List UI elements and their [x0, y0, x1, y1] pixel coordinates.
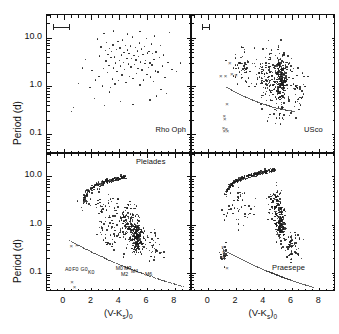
data-point — [232, 213, 233, 214]
data-point — [275, 196, 276, 197]
x-tick-minor — [333, 289, 334, 291]
data-point — [103, 68, 104, 69]
data-point — [96, 183, 97, 184]
x-axis-title: (V-Ks)0 — [233, 307, 293, 320]
y-tick-label: 10.0 — [6, 169, 42, 179]
data-point — [288, 99, 289, 100]
data-point — [295, 237, 296, 238]
data-point — [297, 253, 298, 254]
y-tick-minor — [47, 187, 50, 188]
y-tick-minor — [192, 232, 195, 233]
data-point — [130, 66, 131, 67]
x-tick-minor — [133, 154, 134, 157]
data-point — [289, 254, 290, 255]
data-point — [279, 117, 280, 118]
data-point — [290, 232, 291, 233]
data-point — [154, 229, 155, 230]
y-tick-minor — [192, 275, 195, 276]
data-point — [266, 198, 267, 199]
data-point — [276, 103, 277, 104]
data-point — [221, 209, 222, 210]
y-tick-minor — [47, 229, 50, 230]
x-tick-minor — [112, 289, 113, 291]
data-point — [233, 200, 234, 201]
data-point — [273, 202, 274, 203]
data-point — [290, 65, 291, 66]
y-tick-minor — [47, 139, 50, 140]
data-point — [118, 233, 119, 234]
data-point — [246, 71, 247, 72]
data-point — [238, 223, 239, 224]
data-point — [295, 242, 296, 243]
x-tick-minor — [312, 289, 313, 291]
data-point — [242, 179, 243, 180]
data-point — [153, 81, 154, 82]
x-tick-minor — [105, 289, 106, 291]
data-point — [132, 214, 133, 215]
y-tick-minor — [47, 63, 50, 64]
data-point — [260, 83, 261, 84]
data-point — [291, 71, 292, 72]
data-point — [124, 69, 125, 70]
x-tick-minor — [154, 154, 155, 157]
x-tick-minor — [229, 154, 230, 157]
data-point — [114, 56, 115, 57]
data-point — [270, 53, 271, 54]
data-point — [284, 98, 285, 99]
data-point — [280, 39, 281, 40]
data-point — [99, 188, 100, 189]
data-point — [136, 205, 137, 206]
spectral-type-label: M4 — [131, 268, 138, 274]
cross-marker — [222, 117, 227, 122]
data-point — [295, 117, 296, 118]
detection-limit-marker — [313, 287, 314, 288]
data-point — [271, 202, 272, 203]
data-point — [267, 171, 268, 172]
data-point — [287, 248, 288, 249]
data-point — [130, 208, 131, 209]
x-tick-major — [147, 15, 148, 20]
data-point — [275, 55, 276, 56]
y-tick-minor — [192, 179, 195, 180]
data-point — [244, 72, 245, 73]
x-tick-minor — [271, 154, 272, 157]
y-tick-minor — [47, 94, 50, 95]
x-tick-minor — [201, 154, 202, 157]
data-point — [132, 219, 133, 220]
y-tick-label: 1.0 — [6, 218, 42, 228]
data-point — [145, 244, 146, 245]
data-point — [284, 223, 285, 224]
data-point — [303, 84, 304, 85]
data-point — [261, 173, 262, 174]
data-point — [105, 217, 106, 218]
data-point — [162, 65, 163, 66]
y-tick-major — [47, 176, 52, 177]
y-tick-minor — [333, 232, 335, 233]
data-point — [112, 215, 113, 216]
data-point — [291, 250, 292, 251]
data-point — [238, 210, 239, 211]
y-tick-minor — [192, 184, 195, 185]
data-point — [110, 87, 111, 88]
data-point — [98, 213, 99, 214]
data-point — [161, 252, 162, 253]
y-tick-minor — [333, 277, 335, 278]
data-point — [270, 171, 271, 172]
data-point — [278, 227, 279, 228]
data-point — [87, 191, 88, 192]
x-tick-label: 4 — [108, 295, 128, 305]
y-tick-minor — [333, 280, 335, 281]
y-tick-minor — [47, 235, 50, 236]
data-point — [295, 234, 296, 235]
y-tick-minor — [192, 43, 195, 44]
x-tick-minor — [50, 289, 51, 291]
x-tick-minor — [271, 289, 272, 291]
y-tick-minor — [47, 196, 50, 197]
x-tick-major — [236, 15, 237, 20]
data-point — [265, 172, 266, 173]
data-point — [167, 62, 168, 63]
x-tick-minor — [305, 289, 306, 291]
data-point — [284, 90, 285, 91]
data-point — [86, 202, 87, 203]
data-point — [73, 107, 74, 108]
